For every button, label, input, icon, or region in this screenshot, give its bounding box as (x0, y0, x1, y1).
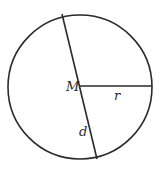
circle-diagram: M r d (0, 0, 164, 170)
diameter-label: d (79, 124, 87, 139)
center-label: M (65, 79, 80, 94)
radius-label: r (114, 88, 121, 103)
